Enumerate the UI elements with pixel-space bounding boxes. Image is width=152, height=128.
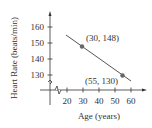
x-tick-30: 30 [79,96,89,106]
point-label-b: (55, 130) [85,76,118,86]
x-axis-break-icon [55,86,61,94]
x-tick-50: 50 [111,96,121,106]
data-point-55-130 [120,73,124,77]
x-tick-20: 20 [63,96,73,106]
x-axis-arrow-icon [142,89,147,92]
x-axis-title: Age (years) [78,111,120,121]
x-tick-60: 60 [127,96,137,106]
chart: 160 150 140 130 20 30 40 50 60 (30, 148)… [0,0,152,128]
y-tick-150: 150 [31,38,45,48]
x-tick-40: 40 [95,96,105,106]
y-tick-140: 140 [31,54,45,64]
y-tick-160: 160 [31,22,45,32]
point-label-a: (30, 148) [86,33,119,43]
y-axis-title: Heart Rate (beats/min) [9,17,19,99]
data-point-30-148 [80,44,84,48]
y-tick-130: 130 [31,70,45,80]
y-axis-arrow-icon [49,11,52,16]
y-tick-labels: 160 150 140 130 [31,22,45,80]
x-tick-labels: 20 30 40 50 60 [63,96,137,106]
